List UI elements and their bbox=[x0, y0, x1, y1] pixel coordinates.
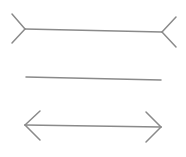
plain-line-figure bbox=[26, 77, 161, 80]
right-fin bbox=[162, 17, 176, 32]
arrows-in-figure bbox=[25, 111, 161, 142]
shaft-line bbox=[25, 29, 162, 32]
left-fin bbox=[12, 14, 25, 29]
muller-lyer-diagram bbox=[0, 0, 186, 157]
left-fin bbox=[12, 29, 25, 43]
left-fin bbox=[25, 125, 40, 140]
right-fin bbox=[146, 127, 161, 142]
shaft-line bbox=[25, 125, 161, 127]
fins-out-figure bbox=[12, 14, 176, 47]
shaft-line bbox=[26, 77, 161, 80]
left-fin bbox=[25, 111, 40, 125]
right-fin bbox=[146, 112, 161, 127]
right-fin bbox=[162, 32, 176, 47]
